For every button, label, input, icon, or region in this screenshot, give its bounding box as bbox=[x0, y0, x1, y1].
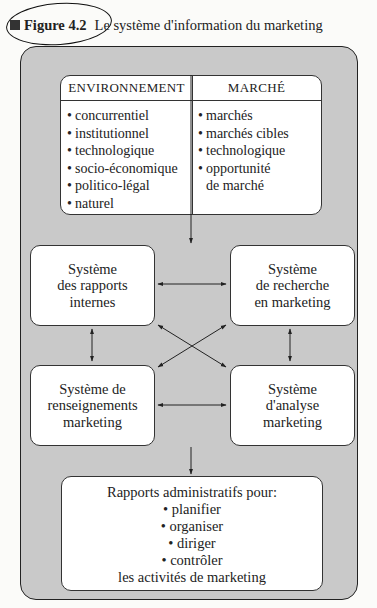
connector-arrows bbox=[0, 0, 377, 608]
